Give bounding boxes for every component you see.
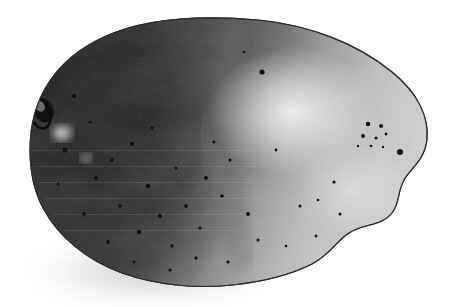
surface-pore [174, 166, 177, 169]
surface-pore [94, 176, 97, 179]
cluster-pore [357, 145, 359, 147]
dark-spot [332, 180, 335, 183]
surface-pore [204, 176, 208, 180]
surface-pore [299, 205, 302, 208]
surface-pore [170, 244, 173, 247]
surface-pore [194, 256, 197, 259]
surface-pore [259, 69, 264, 74]
surface-pore [72, 94, 76, 98]
surface-pore [146, 184, 151, 189]
surface-pore [118, 204, 122, 208]
surface-pore [158, 214, 162, 218]
surface-pore [315, 235, 318, 238]
cluster-pore [375, 137, 378, 140]
cluster-pore [361, 134, 365, 138]
surface-pore [220, 194, 224, 198]
specimen-plate-page [0, 0, 450, 307]
surface-pore [246, 212, 250, 216]
cluster-pore [370, 145, 373, 148]
surface-pore [226, 260, 229, 263]
surface-pore [285, 245, 288, 248]
surface-pore [63, 148, 68, 153]
surface-pore [169, 269, 172, 272]
surface-pore [133, 261, 136, 264]
surface-pore [82, 212, 86, 216]
dark-spot [397, 149, 403, 155]
surface-pore [137, 230, 141, 234]
surface-pore [88, 120, 91, 123]
surface-pore [213, 141, 216, 144]
surface-pore [243, 51, 246, 54]
surface-pore [198, 226, 201, 229]
cluster-pore [382, 146, 384, 148]
surface-pore [130, 142, 134, 146]
cluster-pore [366, 122, 370, 126]
surface-pore [275, 149, 278, 152]
surface-pore [106, 240, 110, 244]
surface-pore [229, 159, 232, 162]
surface-pore [184, 204, 188, 208]
dark-spot [317, 199, 320, 202]
cluster-pore [385, 133, 388, 136]
surface-pore [257, 239, 260, 242]
surface-pore [56, 182, 59, 185]
dark-spot [339, 213, 342, 216]
cluster-pore [379, 124, 383, 128]
surface-pore [150, 126, 153, 129]
specimen-photograph [0, 0, 450, 307]
surface-pore [110, 158, 114, 162]
